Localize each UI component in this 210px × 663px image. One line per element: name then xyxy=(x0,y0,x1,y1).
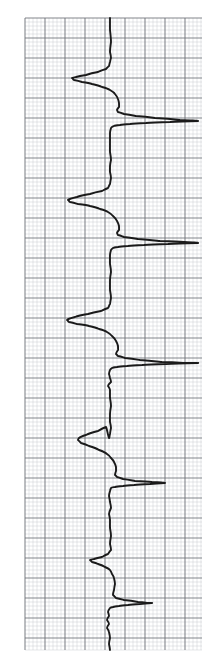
chart-page xyxy=(0,0,210,663)
strip-chart-recording xyxy=(0,0,210,663)
